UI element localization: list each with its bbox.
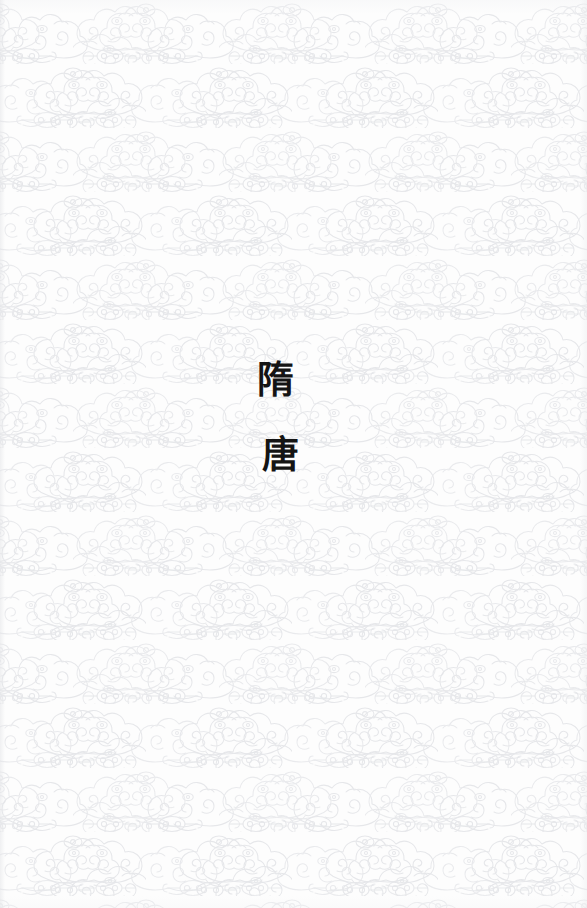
divider-page: 隋 唐 [0,0,587,908]
title-char-tang: 唐 [0,437,587,474]
title-char-sui: 隋 [0,362,587,399]
section-title: 隋 唐 [0,362,587,474]
